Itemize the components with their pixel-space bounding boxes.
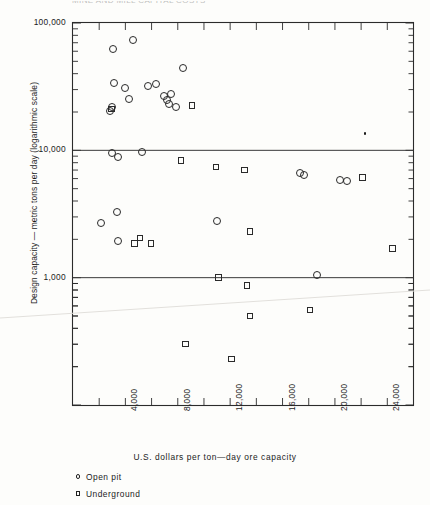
data-point-circle — [114, 153, 122, 161]
data-point-square — [148, 240, 154, 246]
legend-item-open-pit: Open pit — [70, 468, 140, 485]
data-point-square — [189, 102, 195, 108]
data-point-square — [215, 274, 221, 280]
data-point-circle — [114, 237, 122, 245]
legend-label-underground: Underground — [86, 489, 140, 499]
y-tick-label: 1,000 — [18, 272, 66, 282]
plot-frame — [73, 23, 414, 406]
x-tick-label: 8,000 — [182, 389, 192, 411]
scan-fold-artifact — [0, 290, 430, 318]
x-tick-label: 24,000 — [391, 384, 401, 411]
underground-square-icon — [70, 491, 86, 495]
data-point-circle — [110, 79, 118, 87]
data-point-circle — [172, 103, 180, 111]
data-point-square — [389, 245, 395, 251]
data-point-square — [108, 106, 114, 112]
axis-ticks — [73, 23, 414, 405]
data-point-circle — [113, 208, 121, 216]
data-point-circle — [125, 95, 133, 103]
data-point-circle — [121, 84, 129, 92]
data-point-square — [228, 356, 234, 362]
plot-canvas — [0, 0, 430, 505]
scatter-plot-figure: MINE AND MILL CAPITAL COSTS 4,0008,00012… — [0, 0, 430, 505]
legend-item-underground: Underground — [70, 485, 140, 502]
y-tick-label: 100,000 — [18, 17, 66, 27]
data-point-square — [131, 240, 137, 246]
data-point-square — [213, 164, 219, 170]
open-pit-circle-icon — [70, 474, 86, 479]
data-point-circle — [213, 217, 221, 225]
data-point-square — [241, 167, 247, 173]
x-tick-label: 12,000 — [234, 384, 244, 411]
data-point-square — [247, 228, 253, 234]
x-axis-label: U.S. dollars per ton—day ore capacity — [0, 452, 430, 462]
x-tick-label: 4,000 — [129, 389, 139, 411]
data-point-circle — [97, 219, 105, 227]
data-point-circle — [313, 271, 321, 279]
data-point-square — [307, 307, 313, 313]
x-tick-label: 20,000 — [339, 384, 349, 411]
data-point-square — [359, 174, 365, 180]
data-point-circle — [129, 36, 137, 44]
data-point-square — [244, 282, 250, 288]
data-point-circle — [167, 90, 175, 98]
data-point-square — [178, 157, 184, 163]
data-point-square — [247, 313, 253, 319]
data-point-circle — [138, 148, 146, 156]
data-point-square — [182, 341, 188, 347]
y-axis-label: Design capacity — metric tons per day (l… — [29, 73, 39, 313]
legend-label-open-pit: Open pit — [86, 472, 122, 482]
x-tick-label: 16,000 — [287, 384, 297, 411]
legend: Open pit Underground — [70, 468, 140, 502]
y-tick-label: 10,000 — [18, 144, 66, 154]
